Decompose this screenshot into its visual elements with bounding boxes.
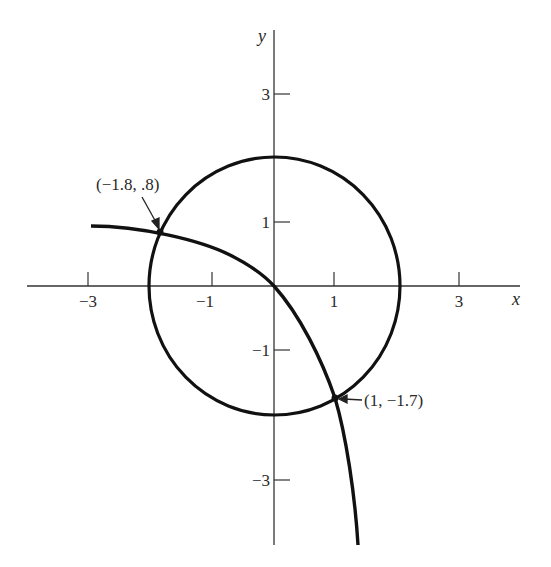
chart: −3 −1 1 3 3 1 −1 −3 x y (−1.8, .8) (1, −…	[0, 0, 551, 567]
annotation-label: (−1.8, .8)	[96, 175, 159, 194]
x-tick-label: −1	[196, 292, 214, 311]
x-tick-label: 1	[330, 292, 339, 311]
y-tick-label: 1	[262, 213, 271, 232]
y-tick-label: −1	[252, 341, 270, 360]
y-tick-label: 3	[262, 85, 271, 104]
annotation-label: (1, −1.7)	[364, 391, 423, 410]
y-axis-label: y	[256, 26, 266, 46]
y-tick-label: −3	[252, 471, 270, 490]
intersection-point	[332, 395, 339, 402]
x-tick-label: −3	[79, 292, 97, 311]
function-curve	[91, 226, 358, 545]
x-tick-label: 3	[455, 292, 464, 311]
x-axis-label: x	[511, 289, 520, 309]
intersection-point	[157, 229, 164, 236]
annotation-arrow	[142, 197, 159, 229]
